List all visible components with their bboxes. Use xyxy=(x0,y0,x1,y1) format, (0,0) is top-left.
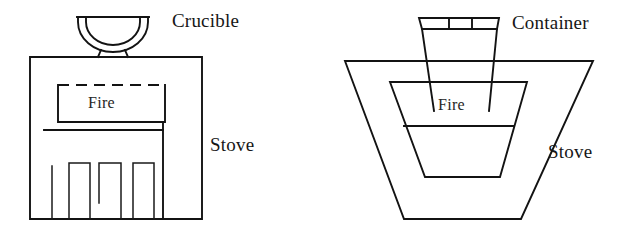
label-fire-right: Fire xyxy=(438,96,465,114)
grate-leg-1 xyxy=(69,163,90,219)
crucible-inner-bowl xyxy=(86,18,140,45)
container-body-left-wall xyxy=(422,29,434,111)
label-stove-left: Stove xyxy=(210,134,254,156)
left-diagram-group xyxy=(30,17,202,219)
grate-leg-3 xyxy=(133,163,154,219)
label-container: Container xyxy=(512,12,589,34)
grate-leg-2 xyxy=(99,163,121,219)
container-rim-band xyxy=(419,18,499,29)
figure-container: Crucible Stove Fire Container Stove Fire xyxy=(0,0,636,232)
crucible-foot-right xyxy=(125,50,128,57)
right-diagram-group xyxy=(345,18,593,219)
stove-left-body xyxy=(30,57,202,219)
crucible-outer-bowl xyxy=(78,17,148,52)
container-body-right-wall xyxy=(489,29,497,111)
stove-right-body xyxy=(345,61,593,219)
label-crucible: Crucible xyxy=(172,10,239,32)
label-fire-left: Fire xyxy=(88,94,115,112)
stove-diagrams-svg xyxy=(0,0,636,232)
label-stove-right: Stove xyxy=(548,141,592,163)
crucible-foot-left xyxy=(98,50,101,57)
